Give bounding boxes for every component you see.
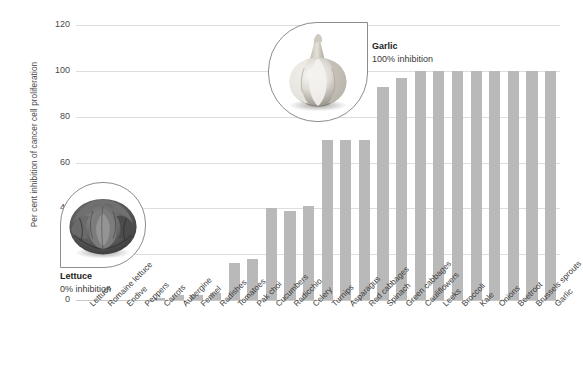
bar-slot [225, 25, 244, 300]
bar [415, 71, 426, 300]
bar-slot [206, 25, 225, 300]
lettuce-label: Lettuce [60, 270, 111, 283]
bar-slot [243, 25, 262, 300]
bar-slot [448, 25, 467, 300]
bar [545, 71, 556, 300]
bar-slot [485, 25, 504, 300]
garlic-callout-text: Garlic 100% inhibition [372, 40, 433, 66]
lettuce-callout-circle [60, 182, 146, 268]
lettuce-head-image [61, 183, 145, 267]
bar [452, 71, 463, 300]
y-axis-tick-label: 60 [30, 157, 70, 167]
garlic-label: Garlic [372, 40, 433, 53]
x-axis-labels: LettuceRomaine lettuceEndivePeppersCarro… [76, 302, 560, 372]
bar [359, 140, 370, 300]
bar-slot [411, 25, 430, 300]
garlic-bulb-image [269, 23, 367, 121]
bar [471, 71, 482, 300]
y-axis-tick-label: 80 [30, 111, 70, 121]
bar [322, 140, 333, 300]
bar-slot [541, 25, 560, 300]
bar-slot [150, 25, 169, 300]
bar-slot [374, 25, 393, 300]
garlic-detail: 100% inhibition [372, 53, 433, 66]
lettuce-detail: 0% inhibition [60, 283, 111, 296]
bar [508, 71, 519, 300]
bar-slot [169, 25, 188, 300]
bar-slot [392, 25, 411, 300]
bar [340, 140, 351, 300]
garlic-callout-circle [268, 22, 368, 122]
bar-slot [523, 25, 542, 300]
bar-slot [188, 25, 207, 300]
bar-slot [504, 25, 523, 300]
y-axis-tick-label: 100 [30, 65, 70, 75]
y-axis-title: Per cent inhibition of cancer cell proli… [30, 15, 39, 275]
bar [489, 71, 500, 300]
lettuce-callout-text: Lettuce 0% inhibition [60, 270, 111, 296]
bar-slot [467, 25, 486, 300]
y-axis-tick-label: 120 [30, 19, 70, 29]
bar [526, 71, 537, 300]
bar [377, 87, 388, 300]
